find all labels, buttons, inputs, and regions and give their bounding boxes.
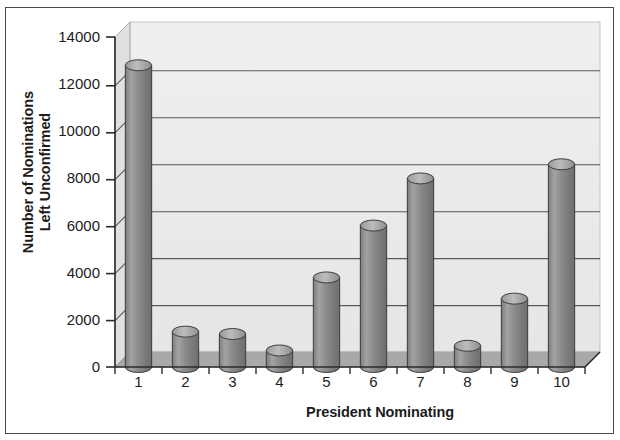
x-axis-title: President Nominating	[180, 404, 580, 420]
x-axis-tick-label: 2	[166, 373, 206, 390]
bar	[313, 272, 339, 373]
x-axis-tick-label: 6	[354, 373, 394, 390]
x-axis-tick-label: 8	[448, 373, 488, 390]
y-axis-tick-label: 0	[28, 359, 100, 374]
bar	[407, 173, 433, 373]
x-axis-tick-label: 9	[495, 373, 535, 390]
y-axis-tick-label: 14000	[28, 29, 100, 44]
y-axis-tick-label: 2000	[28, 312, 100, 327]
bar	[501, 293, 527, 372]
y-axis-title: Number of NominationsLeft Unconfirmed	[20, 57, 54, 287]
bar	[219, 329, 245, 373]
x-axis-tick-label: 10	[542, 373, 582, 390]
chart-figure: 02000400060008000100001200014000 1234567…	[0, 0, 620, 440]
x-axis-tick-label: 7	[401, 373, 441, 390]
x-axis-tick-label: 1	[119, 373, 159, 390]
x-axis-tick-label: 4	[260, 373, 300, 390]
bar	[266, 345, 292, 372]
bar	[172, 326, 198, 372]
x-axis-tick-label: 5	[307, 373, 347, 390]
x-axis-tick-label: 3	[213, 373, 253, 390]
bar	[548, 159, 574, 373]
y-axis	[106, 37, 115, 367]
bar	[360, 220, 386, 372]
bar	[125, 60, 151, 373]
